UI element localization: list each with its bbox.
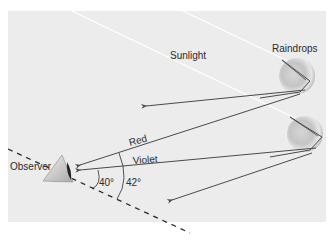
label-observer: Observer <box>10 161 52 172</box>
label-raindrops: Raindrops <box>272 43 318 54</box>
label-violet: Violet <box>132 153 158 166</box>
rainbow-diagram: Sunlight Raindrops Red Violet Observer 4… <box>0 0 333 244</box>
label-angle-40: 40° <box>99 177 114 188</box>
label-sunlight: Sunlight <box>170 50 206 61</box>
label-angle-42: 42° <box>126 177 141 188</box>
